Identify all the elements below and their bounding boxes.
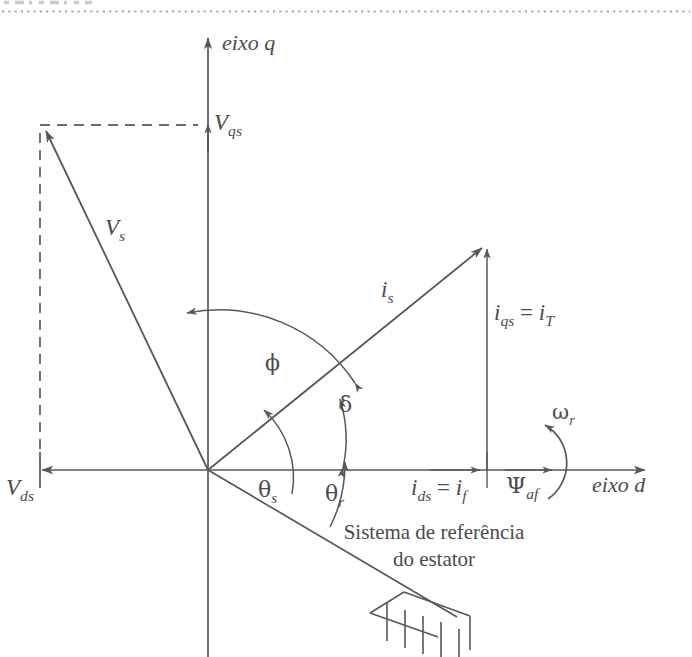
caption-line-2: do estator — [393, 547, 475, 571]
label-angle-phi: ϕ — [265, 350, 280, 375]
label-psi-af: Ψaf — [506, 472, 541, 502]
label-is: is — [381, 277, 393, 306]
label-angle-theta-s: θs — [258, 477, 277, 506]
label-eixo-d: eixo d — [592, 472, 646, 497]
is-vector — [208, 248, 482, 470]
label-vqs: Vqs — [214, 110, 242, 139]
phasor-diagram-figure: eixo q eixo d Vqs Vs Vds is iqs = iT ids… — [0, 0, 692, 657]
label-iqs-eq-it: iqs = iT — [494, 300, 555, 329]
omega-r-rotation-arrow — [545, 425, 567, 499]
vs-vector — [46, 131, 208, 470]
page-scan-artifact — [2, 3, 690, 12]
label-eixo-q: eixo q — [222, 30, 275, 55]
label-ids-eq-if: ids = if — [411, 475, 469, 504]
label-vs: Vs — [105, 215, 125, 244]
label-omega-r: ωr — [552, 400, 575, 428]
label-angle-theta-r: θr — [325, 481, 344, 510]
label-vds: Vds — [6, 475, 34, 504]
ground-hatch-symbol — [370, 592, 470, 657]
phasor-diagram-svg: eixo q eixo d Vqs Vs Vds is iqs = iT ids… — [0, 0, 692, 657]
d-axis — [40, 452, 645, 488]
vs-projection-dashed-lines — [40, 125, 198, 462]
caption-line-1: Sistema de referência — [344, 520, 525, 544]
label-angle-delta: δ — [339, 392, 352, 417]
